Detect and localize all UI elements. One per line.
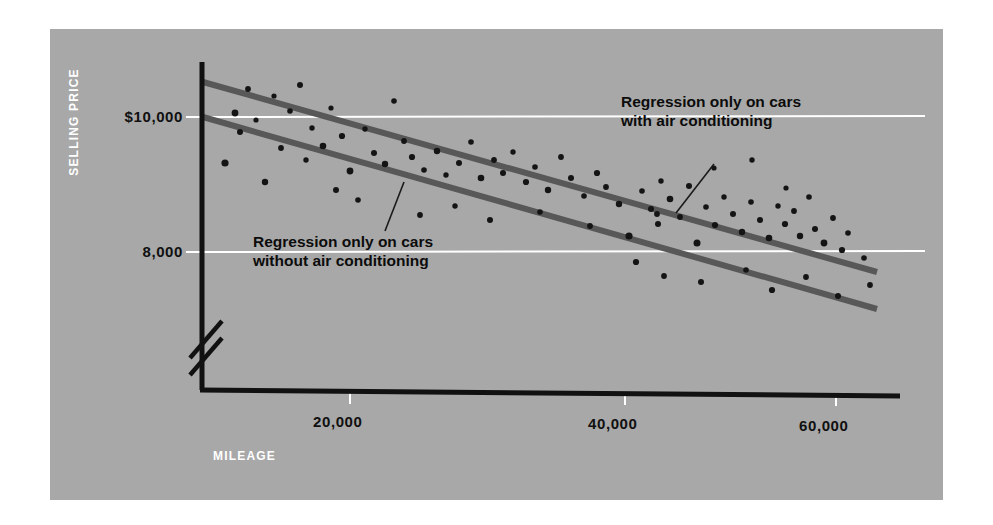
data-point (743, 267, 749, 273)
data-point (491, 157, 497, 163)
data-point (616, 201, 622, 207)
data-point (287, 108, 293, 114)
figure-root: SELLING PRICE MILEAGE $10,000 8,000 20,0… (0, 0, 993, 525)
x-axis (200, 390, 900, 396)
data-point (245, 86, 251, 92)
data-point (558, 154, 564, 160)
data-point (667, 196, 674, 203)
data-point (698, 279, 704, 285)
data-point (237, 129, 243, 135)
data-point (769, 287, 775, 293)
data-point (661, 273, 667, 279)
data-point (278, 145, 284, 151)
x-tick-label-20000: 20,000 (313, 413, 362, 430)
data-point (581, 193, 587, 199)
data-point (639, 188, 645, 194)
data-point (262, 179, 268, 185)
data-point (782, 221, 788, 227)
annotation-without-ac-line1: Regression only on cars (253, 233, 433, 250)
data-point (703, 204, 709, 210)
data-point (648, 206, 654, 212)
data-point (221, 159, 228, 166)
axis-break-icon (190, 321, 222, 375)
data-point (783, 185, 788, 190)
data-point (603, 184, 609, 190)
data-point (232, 110, 239, 117)
data-point (594, 170, 600, 176)
data-point (686, 183, 692, 189)
data-point (775, 203, 780, 208)
data-point (568, 175, 574, 181)
data-point (861, 255, 867, 261)
x-tick-label-60000: 60,000 (799, 417, 848, 434)
data-point (421, 167, 427, 173)
annotation-with-ac-line1: Regression only on cars (621, 93, 801, 110)
data-point (867, 282, 873, 288)
data-point (545, 187, 551, 193)
data-point (297, 82, 303, 88)
data-point (478, 175, 485, 182)
data-point (434, 148, 440, 154)
data-point (320, 143, 327, 150)
data-point (677, 214, 683, 220)
data-point (587, 223, 593, 229)
data-point (391, 98, 397, 104)
data-point (382, 161, 388, 167)
data-point (791, 208, 797, 214)
data-point (694, 240, 701, 247)
data-point (655, 221, 661, 227)
data-point (821, 240, 828, 247)
data-point (658, 178, 663, 183)
data-point (253, 117, 258, 122)
annotation-without-ac: Regression only on cars without air cond… (253, 232, 433, 271)
data-point (749, 157, 754, 162)
data-point (371, 150, 377, 156)
data-point (806, 194, 812, 200)
data-point (362, 126, 367, 131)
data-point (835, 293, 841, 299)
data-point (739, 229, 745, 235)
data-point (730, 211, 736, 217)
data-point (271, 93, 276, 98)
y-tick-label-8000: 8,000 (83, 243, 183, 260)
data-point (452, 203, 457, 208)
data-point (654, 211, 660, 217)
leader-line-without-ac (385, 182, 404, 231)
data-point (797, 233, 803, 239)
data-point (766, 235, 773, 242)
data-point (537, 209, 543, 215)
data-point (409, 154, 415, 160)
data-point (333, 187, 339, 193)
annotation-with-ac-line2: with air conditioning (621, 111, 801, 130)
data-point (510, 149, 515, 154)
data-point (500, 170, 506, 176)
y-tick-label-10000: $10,000 (83, 108, 183, 125)
data-point (456, 160, 462, 166)
data-point (633, 259, 639, 265)
data-point (830, 215, 836, 221)
data-point (328, 105, 333, 110)
data-point (443, 172, 448, 177)
y-axis-title: SELLING PRICE (67, 42, 81, 202)
x-tick-label-40000: 40,000 (588, 415, 637, 432)
data-point (401, 138, 407, 144)
data-point (487, 217, 493, 223)
chart-plot-area (0, 0, 993, 525)
data-point (845, 230, 851, 236)
data-point (748, 199, 754, 205)
data-point (468, 139, 474, 145)
data-point (721, 194, 726, 199)
data-point (339, 133, 345, 139)
data-point (839, 247, 845, 253)
data-point (757, 217, 763, 223)
x-axis-title: MILEAGE (213, 449, 276, 463)
gridline-10000 (202, 116, 925, 117)
annotation-without-ac-line2: without air conditioning (253, 251, 433, 270)
data-point (532, 164, 538, 170)
data-point (803, 274, 809, 280)
annotation-with-ac: Regression only on cars with air conditi… (621, 92, 801, 131)
data-point (355, 197, 361, 203)
data-point (523, 179, 529, 185)
data-point (347, 168, 354, 175)
data-point (303, 157, 308, 162)
